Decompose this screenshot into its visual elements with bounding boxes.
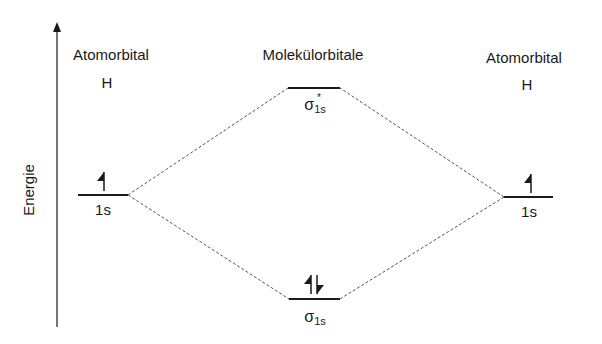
left-element-label: H: [102, 74, 113, 91]
corr-right-antibonding: [340, 88, 504, 197]
bonding-mo-label: σ1s: [304, 308, 326, 327]
middle-column-title: Molekülorbitale: [263, 46, 364, 63]
corr-left-bonding: [128, 195, 289, 299]
right-column-title: Atomorbital: [486, 49, 562, 66]
right-orbital-label: 1s: [521, 203, 537, 220]
right-element-label: H: [522, 76, 533, 93]
corr-left-antibonding: [128, 88, 288, 195]
sigma-subscript: 1s: [314, 315, 326, 327]
bonding-electron-up-icon: [304, 275, 311, 294]
corr-right-bonding: [340, 197, 504, 299]
antibonding-star: *: [317, 92, 321, 103]
sigma-symbol: σ: [304, 308, 314, 325]
right-ao-electron-up-icon: [524, 174, 531, 193]
left-ao-electron-up-icon: [97, 172, 104, 191]
bonding-electron-down-icon: [317, 275, 324, 294]
energy-axis-label: Energie: [20, 164, 37, 216]
antibonding-mo-label: σ1s: [304, 96, 326, 115]
sigma-subscript: 1s: [314, 103, 326, 115]
left-column-title: Atomorbital: [73, 46, 149, 63]
left-orbital-label: 1s: [95, 201, 111, 218]
sigma-symbol: σ: [304, 96, 314, 113]
axis-arrowhead-icon: [53, 22, 61, 32]
